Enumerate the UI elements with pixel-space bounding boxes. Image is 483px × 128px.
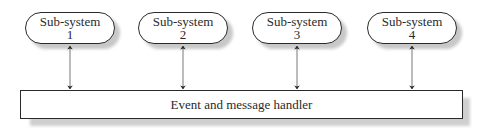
subsystem-1-number: 1 xyxy=(67,28,74,41)
subsystem-2: Sub-system 2 xyxy=(138,12,228,44)
subsystem-3: Sub-system 3 xyxy=(252,12,342,44)
subsystem-4-number: 4 xyxy=(409,28,416,41)
subsystem-4: Sub-system 4 xyxy=(367,12,457,44)
handler-label: Event and message handler xyxy=(171,97,313,113)
subsystem-1: Sub-system 1 xyxy=(25,12,115,44)
event-message-handler: Event and message handler xyxy=(20,90,463,119)
subsystem-3-number: 3 xyxy=(294,28,301,41)
subsystem-2-number: 2 xyxy=(180,28,187,41)
